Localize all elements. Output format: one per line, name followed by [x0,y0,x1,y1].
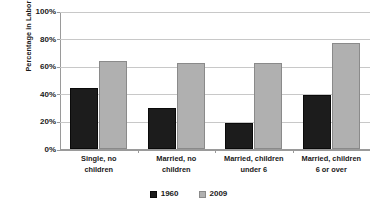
legend-label: 1960 [161,190,179,198]
plot-area [60,12,370,150]
y-tick-label: 100% [22,8,56,16]
x-tick-label: Married, childrenunder 6 [215,154,293,175]
x-tick-label-line: 6 or over [293,165,371,176]
x-tick-mark [138,150,139,153]
x-tick-label-line: Married, children [293,154,371,165]
x-tick-label-line: Married, children [215,154,293,165]
bar-1960-4 [303,95,331,149]
bar-1960-1 [70,88,98,149]
bar-1960-3 [225,123,253,149]
bar-chart: Percentage in Labor Force 0%20%40%60%80%… [0,0,377,214]
bar-2009-1 [99,61,127,149]
y-tick-mark [57,94,60,95]
y-tick-mark [57,12,60,13]
legend-swatch-icon [150,191,157,198]
bar-2009-4 [332,43,360,149]
x-tick-label-line: Married, no [138,154,216,165]
x-tick-mark [215,150,216,153]
y-tick-mark [57,150,60,151]
gridline [60,12,370,13]
bar-1960-2 [148,108,176,149]
x-tick-label-line: children [60,165,138,176]
y-tick-mark [57,122,60,123]
y-tick-label: 80% [22,36,56,44]
x-tick-label: Married, children6 or over [293,154,371,175]
legend-label: 2009 [210,190,228,198]
x-tick-label-line: children [138,165,216,176]
legend-swatch-icon [199,191,206,198]
x-tick-label-line: under 6 [215,165,293,176]
x-tick-mark [293,150,294,153]
x-axis-category-labels: Single, nochildrenMarried, nochildrenMar… [60,154,370,182]
x-tick-label-line: Single, no [60,154,138,165]
y-axis-line [60,12,61,150]
y-tick-mark [57,39,60,40]
y-tick-label: 60% [22,63,56,71]
y-axis-tick-labels: 0%20%40%60%80%100% [22,12,56,150]
x-tick-label: Married, nochildren [138,154,216,175]
y-tick-label: 20% [22,118,56,126]
y-tick-label: 0% [22,146,56,154]
gridline [60,39,370,40]
x-tick-label: Single, nochildren [60,154,138,175]
legend-item-1960[interactable]: 1960 [150,190,179,198]
bar-2009-3 [254,63,282,149]
y-tick-label: 40% [22,91,56,99]
legend-item-2009[interactable]: 2009 [199,190,228,198]
y-tick-mark [57,67,60,68]
chart-legend: 19602009 [0,190,377,198]
bar-2009-2 [177,63,205,149]
